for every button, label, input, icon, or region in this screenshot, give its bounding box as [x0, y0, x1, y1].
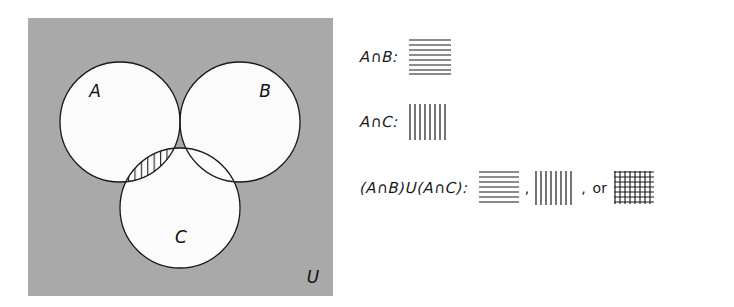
legend-expression-3: (A∩B)U(A∩C): [360, 179, 470, 197]
figure-root: A B C U A∩B: [0, 0, 734, 307]
swatch-vertical-lines [408, 103, 452, 141]
legend-row-a-inter-c: A∩C: [360, 103, 452, 141]
universe-label: U [307, 267, 320, 287]
swatch-vertical-lines [534, 170, 576, 206]
swatch-horizontal-lines [478, 170, 520, 206]
legend-or-word: or [591, 180, 613, 196]
legend-expression-2: A∩C: [360, 113, 400, 131]
set-label-a: A [88, 81, 101, 101]
legend-expression-1: A∩B: [360, 48, 400, 66]
set-label-c: C [175, 227, 187, 247]
venn-svg: A B C U [0, 0, 360, 307]
legend-row-a-inter-b: A∩B: [360, 38, 452, 76]
swatch-cross-hatch [613, 170, 655, 206]
venn-diagram: A B C U [0, 0, 360, 307]
set-label-b: B [259, 81, 271, 101]
legend-separator: , [576, 180, 590, 196]
swatch-horizontal-lines [408, 38, 452, 76]
legend-separator: , [520, 180, 534, 196]
legend: A∩B: [360, 0, 734, 307]
legend-row-union: (A∩B)U(A∩C): , [360, 170, 655, 206]
